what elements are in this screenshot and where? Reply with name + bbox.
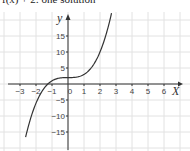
x-tick-label: 1	[82, 87, 87, 96]
x-tick-label: 4	[130, 87, 135, 96]
series-line	[26, 13, 112, 137]
grid	[0, 12, 190, 151]
x-tick-label: −3	[15, 87, 25, 96]
y-tick-label: 5	[61, 64, 66, 73]
y-tick-label: 15	[56, 32, 65, 41]
axes	[8, 14, 183, 150]
x-axis-label: X	[171, 84, 180, 98]
y-tick-label: −5	[56, 96, 66, 105]
chart: −3−2−10123456−15−10−551015 X y	[0, 0, 190, 151]
y-axis-label: y	[56, 11, 63, 25]
y-tick-label: 10	[56, 48, 65, 57]
curve	[26, 13, 112, 137]
y-tick-label: −15	[51, 128, 65, 137]
y-axis-arrow	[66, 14, 71, 20]
x-tick-label: 6	[162, 87, 167, 96]
y-tick-label: −10	[51, 112, 65, 121]
x-tick-label: 3	[114, 87, 119, 96]
x-tick-label: 5	[146, 87, 151, 96]
x-tick-label: 0	[68, 87, 73, 96]
x-tick-label: −1	[47, 87, 57, 96]
x-tick-label: 2	[98, 87, 103, 96]
